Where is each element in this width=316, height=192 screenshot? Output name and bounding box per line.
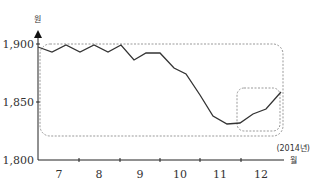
annotation-box-rebound [237,88,280,131]
y-tick-1900: 1,900 [3,38,35,51]
x-tick-8: 8 [96,168,103,181]
price-line [38,45,281,124]
y-axis-unit: 원 [34,15,41,24]
x-tick-12: 12 [254,168,268,181]
annotation-box-overall [40,44,283,136]
x-tick-11: 11 [213,168,227,181]
x-tick-9: 9 [137,168,144,181]
y-tick-1800: 1,800 [3,154,35,167]
x-axis-unit: 월 [290,155,297,165]
year-note: (2014년) [276,143,310,153]
line-chart: 원 1,900 1,850 1,800 7 8 9 10 11 12 (2014… [0,0,316,192]
y-axis-arrow-icon [34,30,42,38]
x-tick-7: 7 [56,168,63,181]
y-tick-1850: 1,850 [3,96,35,109]
x-tick-10: 10 [173,168,187,181]
